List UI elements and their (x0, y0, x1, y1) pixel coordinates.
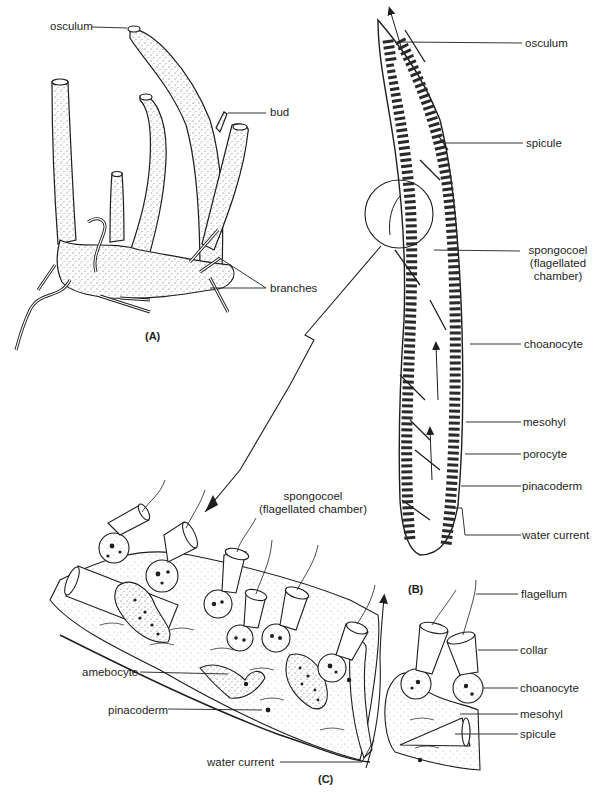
label-c-flagellum: flagellum (521, 588, 567, 601)
label-b-pinacoderm: pinacoderm (522, 480, 582, 493)
label-c-spongocoel-line1: spongocoel (253, 490, 373, 503)
label-c-mesohyl: mesohyl (520, 708, 563, 721)
label-b-choanocyte: choanocyte (524, 338, 583, 351)
label-b-spongocoel-line2: (flagellated (523, 257, 593, 270)
panel-label-c: (C) (318, 773, 333, 785)
label-b-spongocoel: spongocoel (flagellated chamber) (523, 244, 593, 283)
label-c-water-current: water current (207, 756, 274, 769)
label-c-spicule: spicule (520, 728, 556, 741)
panel-b-section (205, 10, 463, 555)
label-b-porocyte: porocyte (523, 448, 567, 461)
label-b-spongocoel-line1: spongocoel (523, 244, 593, 257)
label-c-collar: collar (520, 644, 547, 657)
panel-label-a: (A) (145, 330, 160, 342)
label-b-water-current: water current (522, 529, 589, 542)
label-c-pinacoderm: pinacoderm (108, 704, 168, 717)
label-c-choanocyte: choanocyte (520, 682, 579, 695)
label-b-mesohyl: mesohyl (523, 416, 566, 429)
label-c-spongocoel-line2: (flagellated chamber) (253, 503, 373, 516)
panel-label-b: (B) (408, 583, 423, 595)
label-b-osculum: osculum (525, 37, 568, 50)
label-a-osculum: osculum (50, 20, 93, 33)
label-c-spongocoel: spongocoel (flagellated chamber) (253, 490, 373, 516)
label-b-spongocoel-line3: chamber) (523, 270, 593, 283)
label-c-amebocyte: amebocyte (82, 666, 138, 679)
panel-a-sponge-colony (16, 26, 248, 350)
label-b-spicule: spicule (526, 137, 562, 150)
label-a-bud: bud (270, 106, 289, 119)
label-a-branches: branches (270, 282, 317, 295)
sponge-anatomy-figure: osculum bud branches (A) osculum spicule… (0, 0, 598, 795)
